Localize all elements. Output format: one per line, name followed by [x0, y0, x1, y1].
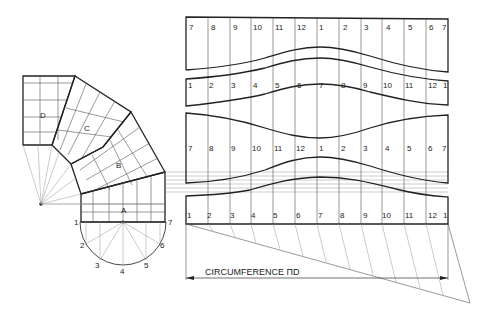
segment-c: C: [52, 76, 131, 164]
svg-text:1: 1: [319, 144, 324, 153]
svg-text:3: 3: [231, 81, 236, 90]
circumference-label: CIRCUMFERENCE ΠD: [205, 267, 300, 277]
svg-text:8: 8: [209, 144, 214, 153]
svg-text:3: 3: [230, 211, 235, 220]
svg-text:9: 9: [231, 144, 236, 153]
segment-a: A: [81, 172, 165, 222]
point-3: 3: [95, 261, 100, 270]
svg-text:12: 12: [296, 144, 305, 153]
svg-text:9: 9: [363, 81, 368, 90]
svg-text:7: 7: [442, 144, 447, 153]
svg-text:8: 8: [341, 81, 346, 90]
svg-text:12: 12: [428, 211, 437, 220]
svg-text:4: 4: [386, 23, 391, 32]
elbow-development-drawing: D C B: [0, 0, 488, 319]
svg-text:7: 7: [318, 211, 323, 220]
profile-semicircle: 1 2 3 4 5 6 7: [74, 218, 173, 276]
elbow-elevation: D C B: [23, 76, 448, 276]
svg-text:3: 3: [363, 144, 368, 153]
svg-text:4: 4: [251, 211, 256, 220]
svg-text:10: 10: [253, 23, 262, 32]
svg-text:11: 11: [274, 144, 283, 153]
segment-label-c: C: [84, 124, 90, 133]
svg-text:6: 6: [297, 81, 302, 90]
svg-text:2: 2: [343, 23, 348, 32]
svg-text:9: 9: [363, 211, 368, 220]
segment-label-d: D: [40, 111, 46, 120]
svg-text:2: 2: [209, 81, 214, 90]
svg-text:7: 7: [442, 23, 447, 32]
svg-text:8: 8: [211, 23, 216, 32]
svg-text:6: 6: [296, 211, 301, 220]
svg-text:5: 5: [407, 144, 412, 153]
point-5: 5: [144, 261, 149, 270]
svg-text:10: 10: [382, 211, 391, 220]
svg-text:11: 11: [275, 23, 284, 32]
svg-text:10: 10: [383, 81, 392, 90]
svg-text:12: 12: [428, 81, 437, 90]
svg-text:11: 11: [405, 211, 414, 220]
point-2: 2: [80, 241, 85, 250]
svg-text:7: 7: [188, 144, 193, 153]
svg-text:7: 7: [319, 81, 324, 90]
svg-text:5: 5: [408, 23, 413, 32]
circumference-dimension: CIRCUMFERENCE ΠD: [186, 267, 448, 280]
svg-text:3: 3: [364, 23, 369, 32]
point-4: 4: [120, 267, 125, 276]
svg-text:5: 5: [273, 211, 278, 220]
development-patterns: 7 8 9 10 11 12 1 2 3 4 5 6 7 1 2 3 4 5: [186, 17, 470, 303]
svg-text:4: 4: [385, 144, 390, 153]
svg-text:11: 11: [405, 81, 414, 90]
svg-text:12: 12: [297, 23, 306, 32]
svg-text:8: 8: [340, 211, 345, 220]
svg-text:10: 10: [252, 144, 261, 153]
svg-text:1: 1: [188, 81, 193, 90]
segment-label-a: A: [121, 206, 127, 215]
svg-text:6: 6: [428, 144, 433, 153]
svg-text:1: 1: [319, 23, 324, 32]
segment-d: D: [23, 76, 75, 145]
svg-text:1: 1: [443, 211, 448, 220]
svg-text:1: 1: [443, 81, 448, 90]
svg-text:5: 5: [275, 81, 280, 90]
svg-text:6: 6: [429, 23, 434, 32]
svg-text:1: 1: [187, 211, 192, 220]
svg-text:2: 2: [341, 144, 346, 153]
segment-label-b: B: [116, 161, 121, 170]
point-1: 1: [74, 218, 79, 227]
svg-text:4: 4: [253, 81, 258, 90]
point-7: 7: [168, 218, 173, 227]
svg-text:7: 7: [189, 23, 194, 32]
point-6: 6: [160, 241, 165, 250]
circumference-construction: [186, 224, 470, 303]
svg-text:2: 2: [207, 211, 212, 220]
svg-text:9: 9: [233, 23, 238, 32]
